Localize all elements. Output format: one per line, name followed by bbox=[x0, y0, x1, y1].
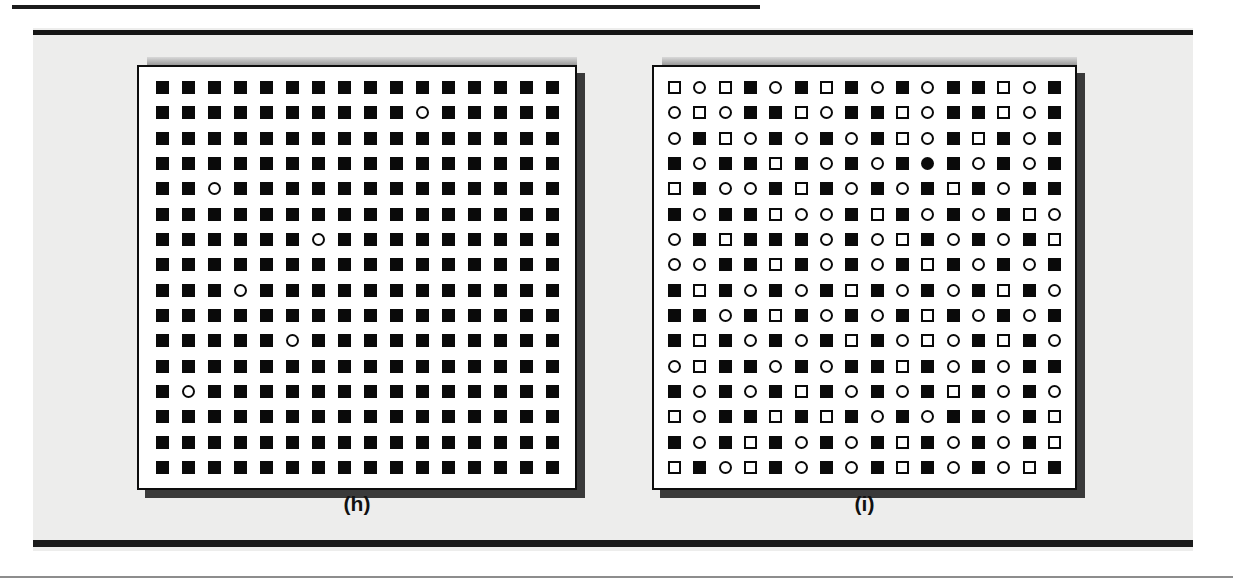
grid-cell bbox=[789, 404, 814, 429]
filled-square-symbol bbox=[182, 309, 195, 322]
open-square-symbol bbox=[668, 81, 681, 94]
grid-cell bbox=[175, 278, 201, 303]
grid-cell bbox=[738, 75, 763, 100]
filled-square-symbol bbox=[156, 106, 169, 119]
filled-square-symbol bbox=[668, 284, 681, 297]
filled-square-symbol bbox=[234, 81, 247, 94]
grid-cell bbox=[738, 100, 763, 125]
filled-square-symbol bbox=[546, 106, 559, 119]
grid-cell bbox=[738, 126, 763, 151]
open-circle-symbol bbox=[947, 233, 960, 246]
grid-cell bbox=[175, 100, 201, 125]
filled-square-symbol bbox=[921, 284, 934, 297]
grid-cell bbox=[814, 379, 839, 404]
grid-cell bbox=[814, 202, 839, 227]
filled-square-symbol bbox=[769, 106, 782, 119]
grid-cell bbox=[539, 100, 565, 125]
filled-square-symbol bbox=[921, 233, 934, 246]
open-circle-symbol bbox=[997, 182, 1010, 195]
filled-square-symbol bbox=[494, 182, 507, 195]
filled-square-symbol bbox=[390, 410, 403, 423]
grid-cell bbox=[461, 404, 487, 429]
grid-cell bbox=[513, 328, 539, 353]
filled-square-symbol bbox=[338, 360, 351, 373]
open-circle-symbol bbox=[896, 385, 909, 398]
grid-cell bbox=[253, 126, 279, 151]
grid-cell bbox=[253, 353, 279, 378]
grid-cell bbox=[383, 328, 409, 353]
grid-cell bbox=[814, 278, 839, 303]
filled-square-symbol bbox=[468, 334, 481, 347]
open-circle-symbol bbox=[820, 258, 833, 271]
filled-square-symbol bbox=[494, 132, 507, 145]
grid-cell bbox=[461, 303, 487, 328]
grid-cell bbox=[461, 176, 487, 201]
filled-square-symbol bbox=[416, 132, 429, 145]
grid-cell bbox=[940, 303, 965, 328]
filled-square-symbol bbox=[390, 436, 403, 449]
filled-square-symbol bbox=[260, 410, 273, 423]
grid-cell bbox=[814, 227, 839, 252]
filled-square-symbol bbox=[546, 436, 559, 449]
grid-cell bbox=[149, 151, 175, 176]
grid-cell bbox=[814, 404, 839, 429]
open-square-symbol bbox=[744, 436, 757, 449]
grid-cell bbox=[662, 328, 687, 353]
filled-square-symbol bbox=[416, 258, 429, 271]
filled-square-symbol bbox=[442, 208, 455, 221]
grid-cell bbox=[331, 429, 357, 454]
grid-cell bbox=[279, 227, 305, 252]
grid-cell bbox=[687, 100, 712, 125]
filled-square-symbol bbox=[972, 334, 985, 347]
filled-square-symbol bbox=[338, 284, 351, 297]
filled-square-symbol bbox=[442, 157, 455, 170]
filled-square-symbol bbox=[260, 360, 273, 373]
grid-cell bbox=[789, 278, 814, 303]
filled-square-symbol bbox=[947, 106, 960, 119]
filled-square-symbol bbox=[182, 258, 195, 271]
grid-cell bbox=[966, 455, 991, 480]
grid-cell bbox=[149, 278, 175, 303]
filled-square-symbol bbox=[520, 106, 533, 119]
filled-square-symbol bbox=[997, 208, 1010, 221]
grid-cell bbox=[763, 328, 788, 353]
open-circle-symbol bbox=[845, 385, 858, 398]
grid-cell bbox=[539, 455, 565, 480]
filled-square-symbol bbox=[338, 182, 351, 195]
grid-cell bbox=[966, 353, 991, 378]
filled-square-symbol bbox=[744, 157, 757, 170]
grid-cell bbox=[539, 278, 565, 303]
grid-cell bbox=[687, 227, 712, 252]
open-circle-symbol bbox=[719, 106, 732, 119]
filled-square-symbol bbox=[845, 410, 858, 423]
grid-cell bbox=[149, 353, 175, 378]
open-circle-symbol bbox=[845, 436, 858, 449]
grid-cell bbox=[839, 303, 864, 328]
open-circle-symbol bbox=[820, 106, 833, 119]
grid-cell bbox=[966, 227, 991, 252]
filled-square-symbol bbox=[208, 106, 221, 119]
grid-cell bbox=[513, 151, 539, 176]
grid-cell bbox=[1042, 176, 1067, 201]
grid-cell bbox=[227, 278, 253, 303]
filled-square-symbol bbox=[364, 410, 377, 423]
grid-cell bbox=[662, 100, 687, 125]
open-circle-symbol bbox=[896, 182, 909, 195]
open-circle-symbol bbox=[947, 284, 960, 297]
filled-square-symbol bbox=[416, 360, 429, 373]
grid-cell bbox=[487, 404, 513, 429]
grid-cell bbox=[966, 151, 991, 176]
grid-cell bbox=[966, 75, 991, 100]
grid-cell bbox=[409, 353, 435, 378]
grid-cell bbox=[383, 100, 409, 125]
grid-cell bbox=[662, 252, 687, 277]
filled-square-symbol bbox=[156, 360, 169, 373]
grid-cell bbox=[940, 151, 965, 176]
grid-cell bbox=[865, 75, 890, 100]
grid-cell bbox=[890, 429, 915, 454]
grid-cell bbox=[789, 75, 814, 100]
filled-square-symbol bbox=[668, 436, 681, 449]
open-circle-symbol bbox=[744, 132, 757, 145]
filled-square-symbol bbox=[390, 233, 403, 246]
filled-square-symbol bbox=[1048, 81, 1061, 94]
